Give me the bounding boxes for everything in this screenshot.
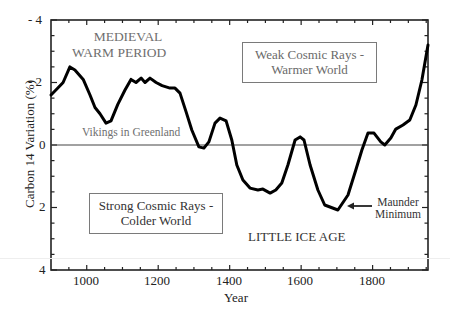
maunder-minimum-label: Maunder Minimum [375, 196, 421, 220]
maunder-line2: Minimum [375, 208, 421, 220]
x-axis-title: Year [224, 290, 248, 306]
y-tick-label: 2 [39, 199, 46, 215]
x-tick-label: 1800 [359, 273, 385, 289]
weak-line2: Warmer World [243, 63, 376, 78]
strong-line1: Strong Cosmic Rays - [90, 199, 222, 214]
maunder-arrow-icon [347, 203, 372, 210]
y-tick-label: 0 [39, 137, 46, 153]
x-tick-label: 1200 [144, 273, 170, 289]
x-tick-label: 1400 [216, 273, 242, 289]
x-tick-label: 1000 [73, 273, 99, 289]
y-axis-title: Carbon 14 Variation (%) [22, 64, 38, 224]
strong-cosmic-rays-box: Strong Cosmic Rays - Colder World [89, 193, 223, 234]
divider [0, 258, 450, 259]
weak-line1: Weak Cosmic Rays - [243, 48, 376, 63]
x-tick-label: 1600 [287, 273, 313, 289]
vikings-label: Vikings in Greenland [82, 126, 180, 138]
carbon14-chart [0, 0, 450, 314]
y-tick-label: - 4 [28, 12, 42, 28]
strong-line2: Colder World [90, 214, 222, 229]
y-tick-label: 4 [39, 262, 46, 278]
little-ice-age-label: LITTLE ICE AGE [248, 230, 345, 244]
medieval-line2: WARM PERIOD [72, 46, 166, 60]
weak-cosmic-rays-box: Weak Cosmic Rays - Warmer World [242, 42, 377, 83]
maunder-line1: Maunder [375, 196, 421, 208]
medieval-line1: MEDIEVAL [88, 30, 168, 44]
medieval-warm-period-label: MEDIEVAL [88, 30, 168, 44]
medieval-warm-period-label-2: WARM PERIOD [72, 46, 166, 60]
